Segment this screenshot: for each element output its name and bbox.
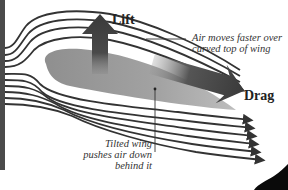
top-annotation-line1: Air moves faster over bbox=[192, 32, 282, 43]
lift-label: Lift bbox=[112, 12, 135, 28]
bottom-annotation: Tilted wing pushes air down behind it bbox=[66, 138, 152, 171]
top-annotation-line2: curved top of wing bbox=[192, 43, 282, 54]
bottom-annotation-line3: behind it bbox=[66, 160, 152, 171]
corner-shadow-shape bbox=[254, 164, 288, 190]
top-annotation: Air moves faster over curved top of wing bbox=[192, 32, 282, 54]
bottom-annotation-line1: Tilted wing bbox=[66, 138, 152, 149]
drag-label: Drag bbox=[244, 88, 274, 104]
lift-drag-diagram: Lift Drag Air moves faster over curved t… bbox=[0, 0, 288, 190]
bottom-annotation-line2: pushes air down bbox=[66, 149, 152, 160]
